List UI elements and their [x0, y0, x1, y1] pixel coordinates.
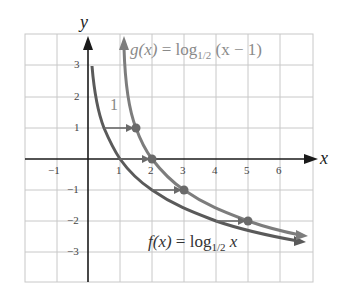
- shift-label: 1: [110, 96, 118, 114]
- f-equation-label: f(x) = log1/2 x: [148, 232, 237, 253]
- f-curve: [92, 66, 298, 241]
- x-tick: 6: [276, 164, 282, 176]
- x-tick: 2: [148, 164, 154, 176]
- y-tick: 3: [74, 58, 80, 70]
- y-tick: 1: [74, 121, 80, 133]
- y-tick: −1: [67, 183, 79, 195]
- x-axis-arrow-icon: [304, 154, 318, 164]
- y-axis-arrow-icon: [83, 36, 93, 50]
- x-tick: 3: [180, 164, 186, 176]
- g-curve-arrow-icon: [296, 230, 308, 240]
- x-tick: 5: [244, 164, 250, 176]
- y-tick: −2: [67, 214, 79, 226]
- g-curve: [124, 48, 300, 235]
- g-equation-label: g(x) = log1/2 (x − 1): [130, 40, 262, 61]
- x-axis-label: x: [320, 148, 328, 169]
- x-tick: 4: [212, 164, 218, 176]
- y-tick: 2: [74, 90, 80, 102]
- x-tick: 1: [116, 164, 122, 176]
- shift-arrows: [104, 124, 246, 225]
- y-tick: −3: [67, 245, 79, 257]
- y-axis-label: y: [80, 12, 88, 33]
- x-tick: −1: [48, 164, 60, 176]
